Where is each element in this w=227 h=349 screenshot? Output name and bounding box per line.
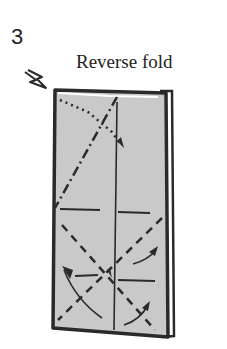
paper [53,90,168,337]
push-arrow-icon [25,70,46,88]
origami-diagram [0,0,227,349]
